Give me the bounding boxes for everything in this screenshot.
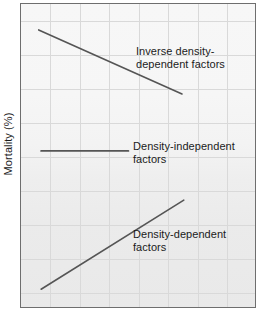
annotation-inverse-density-dependent: Inverse density- dependent factors [136,45,225,71]
y-axis-label: Mortality (%) [2,89,14,199]
y-axis-label-container: Mortality (%) [2,89,20,199]
annotation-density-dependent: Density-dependent factors [133,228,226,254]
annotation-density-independent: Density-independent factors [133,140,235,166]
mortality-density-factors-figure: Mortality (%) Inverse dens [0,0,260,315]
